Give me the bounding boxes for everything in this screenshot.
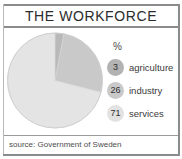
legend-label-services: services — [129, 105, 164, 122]
legend-label-agriculture: agriculture — [129, 59, 173, 76]
chart-legend: % 3 agriculture 26 industry 71 services — [104, 38, 178, 132]
source-divider — [4, 135, 178, 136]
legend-item-services: 71 services — [104, 105, 178, 122]
infographic-card: THE WORKFORCE % 3 agriculture 26 industr… — [0, 0, 182, 159]
card-bottom-rule — [3, 154, 180, 156]
legend-value-badge-industry: 26 — [107, 82, 124, 99]
pie-chart — [7, 31, 103, 130]
legend-item-industry: 26 industry — [104, 82, 178, 99]
legend-item-agriculture: 3 agriculture — [104, 59, 178, 76]
legend-unit-label: % — [113, 41, 122, 52]
title-divider — [4, 26, 178, 28]
card-top-rule — [3, 4, 179, 6]
pie-chart-svg — [7, 31, 103, 130]
source-caption: source: Government of Sweden — [9, 140, 122, 149]
legend-value-badge-agriculture: 3 — [107, 59, 124, 76]
page-title: THE WORKFORCE — [4, 7, 178, 25]
legend-label-industry: industry — [129, 82, 162, 99]
legend-value-badge-services: 71 — [107, 105, 124, 122]
card-right-rule — [178, 4, 180, 156]
